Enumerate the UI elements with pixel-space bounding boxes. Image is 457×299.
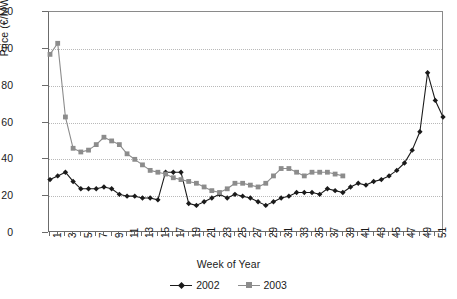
- data-point-marker: [48, 52, 53, 57]
- x-tick-mark: [326, 232, 327, 236]
- y-tick-label: 20: [0, 190, 13, 200]
- x-tick-mark: [103, 232, 104, 236]
- x-tick-mark: [57, 232, 58, 236]
- data-point-marker: [155, 170, 160, 175]
- x-tick-mark: [257, 232, 258, 236]
- x-tick-mark: [88, 232, 89, 236]
- x-tick-label: 39: [346, 224, 356, 238]
- x-tick-label: 37: [330, 224, 340, 238]
- x-tick-label: 25: [238, 224, 248, 238]
- data-point-marker: [101, 184, 106, 189]
- data-point-marker: [302, 174, 307, 179]
- data-point-marker: [325, 170, 330, 175]
- y-tick-label: 0: [0, 227, 13, 237]
- data-point-marker: [78, 150, 83, 155]
- data-point-marker: [271, 199, 276, 204]
- x-tick-label: 1: [53, 224, 63, 238]
- x-tick-mark: [427, 232, 428, 236]
- x-tick-mark: [203, 232, 204, 236]
- data-point-marker: [263, 203, 268, 208]
- data-point-marker: [163, 172, 168, 177]
- data-point-marker: [225, 186, 230, 191]
- data-point-marker: [125, 151, 130, 156]
- chart-legend: 20022003: [0, 279, 457, 291]
- x-tick-mark: [141, 232, 142, 236]
- data-point-marker: [171, 170, 176, 175]
- data-point-marker: [47, 177, 52, 182]
- data-point-marker: [248, 195, 253, 200]
- data-point-marker: [433, 98, 438, 103]
- data-point-marker: [333, 172, 338, 177]
- data-point-marker: [117, 142, 122, 147]
- x-tick-label: 23: [223, 224, 233, 238]
- data-point-marker: [201, 199, 206, 204]
- x-tick-mark: [272, 232, 273, 236]
- data-point-marker: [109, 139, 114, 144]
- x-tick-label: 11: [130, 224, 140, 238]
- data-point-marker: [279, 166, 284, 171]
- data-point-marker: [310, 170, 315, 175]
- x-tick-mark: [373, 232, 374, 236]
- data-point-marker: [340, 174, 345, 179]
- x-tick-label: 5: [84, 224, 94, 238]
- data-point-marker: [263, 181, 268, 186]
- plot-area: [48, 11, 443, 232]
- data-point-marker: [278, 195, 283, 200]
- x-tick-mark: [234, 232, 235, 236]
- x-tick-label: 33: [300, 224, 310, 238]
- x-tick-label: 19: [192, 224, 202, 238]
- data-point-marker: [356, 181, 361, 186]
- data-point-marker: [94, 186, 99, 191]
- x-tick-label: 31: [284, 224, 294, 238]
- data-point-marker: [140, 195, 145, 200]
- x-tick-mark: [80, 232, 81, 236]
- data-point-marker: [178, 170, 183, 175]
- data-point-marker: [86, 186, 91, 191]
- x-tick-mark: [249, 232, 250, 236]
- data-point-marker: [309, 190, 314, 195]
- y-tick-label: 100: [0, 43, 13, 53]
- data-point-marker: [86, 148, 91, 153]
- data-point-marker: [55, 173, 60, 178]
- data-point-marker: [147, 195, 152, 200]
- x-tick-mark: [388, 232, 389, 236]
- x-tick-mark: [442, 232, 443, 236]
- data-point-marker: [194, 181, 199, 186]
- data-point-marker: [186, 179, 191, 184]
- data-point-marker: [132, 193, 137, 198]
- data-point-marker: [233, 181, 238, 186]
- data-point-marker: [202, 185, 207, 190]
- x-tick-mark: [72, 232, 73, 236]
- data-point-marker: [332, 188, 337, 193]
- x-tick-mark: [411, 232, 412, 236]
- x-tick-mark: [342, 232, 343, 236]
- legend-swatch-diamond-icon: [170, 281, 192, 290]
- data-point-marker: [179, 177, 184, 182]
- x-tick-mark: [280, 232, 281, 236]
- data-point-marker: [256, 185, 261, 190]
- data-point-marker: [240, 193, 245, 198]
- x-tick-mark: [126, 232, 127, 236]
- x-tick-mark: [134, 232, 135, 236]
- x-tick-label: 9: [115, 224, 125, 238]
- series-2003: [48, 41, 346, 195]
- x-tick-mark: [195, 232, 196, 236]
- x-tick-mark: [242, 232, 243, 236]
- data-point-marker: [379, 177, 384, 182]
- x-tick-mark: [172, 232, 173, 236]
- data-point-marker: [286, 166, 291, 171]
- x-tick-label: 29: [269, 224, 279, 238]
- x-tick-mark: [265, 232, 266, 236]
- data-point-marker: [317, 170, 322, 175]
- x-tick-label: 7: [99, 224, 109, 238]
- data-point-marker: [294, 170, 299, 175]
- data-point-marker: [302, 190, 307, 195]
- data-point-marker: [409, 147, 414, 152]
- legend-entry-2003[interactable]: 2003: [238, 279, 287, 291]
- data-point-marker: [186, 201, 191, 206]
- data-point-marker: [240, 181, 245, 186]
- x-tick-label: 45: [392, 224, 402, 238]
- legend-entry-2002[interactable]: 2002: [170, 279, 219, 291]
- x-tick-mark: [211, 232, 212, 236]
- y-tick-mark: [42, 232, 48, 233]
